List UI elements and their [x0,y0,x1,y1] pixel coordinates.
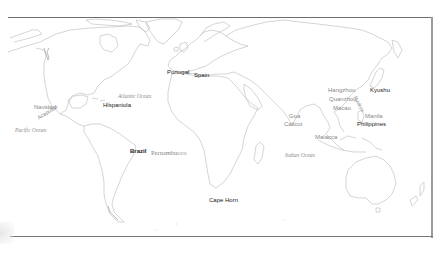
alaska-coast [10,30,42,42]
label-portugal: Portugal [167,69,189,75]
gulf-mexico [68,95,88,108]
antarctic-dots [156,220,285,230]
arctic-islands [86,19,150,32]
british-isles [174,42,188,52]
north-america-coast [8,26,150,114]
label-goa: Goa [289,113,300,119]
label-cape-horn: Cape Horn [209,197,238,203]
label-pacific-ocean: Pacific Ocean [15,128,46,134]
hudson-bay [100,34,118,52]
new-zealand [410,182,424,206]
label-indian-ocean: Indian Ocean [285,153,315,159]
label-hangzhou: Hangzhou [328,87,355,93]
southeast-asia [326,112,344,150]
asia-coast-north [226,20,392,112]
world-map: Portugal Spain Hispaniola Navidad Acapul… [0,0,446,254]
label-calicut: Calicut [284,121,302,127]
europe-coast [168,30,248,72]
kamchatka [392,40,402,58]
greenland [146,19,182,44]
label-hispaniola: Hispaniola [103,102,131,108]
label-pernambucco: Pernambucco [151,150,186,157]
label-spain: Spain [194,72,209,78]
south-america-coast [84,124,136,222]
label-brazil: Brazil [130,148,146,154]
label-kyushu: Kyushu [370,87,390,93]
arabia [244,84,262,110]
bc-coast [44,48,49,60]
central-america [60,114,84,126]
australia-coast [346,156,396,204]
tasmania [376,208,380,212]
madagascar [254,142,264,164]
label-macao: Macao [333,105,351,111]
label-philippines: Philippines [357,121,386,127]
label-manila: Manila [365,113,383,119]
japan [370,68,384,88]
label-atlantic-ocean: Atlantic Ocean [118,94,151,100]
label-malacca: Malacca [315,134,337,140]
coastlines [0,0,446,254]
africa-coast [168,72,258,188]
